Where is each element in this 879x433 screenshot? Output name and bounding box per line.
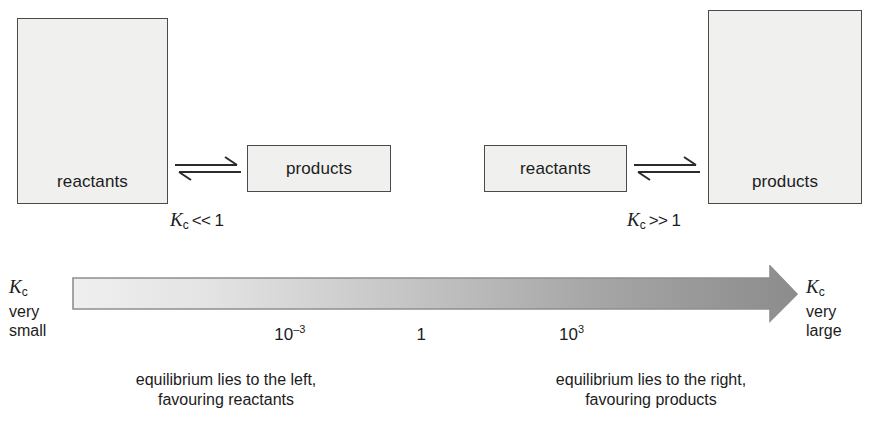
scale-tick-exponent: –3 bbox=[293, 323, 305, 335]
scale-left-line2: very bbox=[9, 302, 46, 321]
scale-tick: 10–3 bbox=[274, 325, 305, 345]
products-label: products bbox=[752, 173, 818, 203]
left-equilibrium-caption: equilibrium lies to the left, favouring … bbox=[136, 370, 317, 410]
reactants-label: reactants bbox=[520, 160, 591, 177]
scale-tick-mantissa: 10 bbox=[274, 325, 293, 344]
kc-condition-right: Kc>>1 bbox=[627, 209, 681, 232]
scale-tick: 103 bbox=[559, 325, 584, 345]
kc-subscript: c bbox=[183, 218, 189, 232]
right-equilibrium-caption: equilibrium lies to the right, favouring… bbox=[556, 370, 746, 410]
scale-left-line3: small bbox=[9, 321, 46, 340]
kc-symbol: K bbox=[9, 276, 22, 297]
kc-symbol-group: Kc bbox=[9, 277, 46, 302]
scale-left-endpoint-label: Kc very small bbox=[9, 277, 46, 340]
kc-subscript: c bbox=[640, 218, 646, 232]
caption-line-1: equilibrium lies to the right, bbox=[556, 370, 746, 390]
products-box-large: products bbox=[708, 10, 862, 204]
products-box-small: products bbox=[247, 145, 391, 192]
scale-tick-mantissa: 10 bbox=[559, 325, 578, 344]
scale-tick-exponent: 3 bbox=[578, 323, 584, 335]
kc-relation: << bbox=[192, 211, 211, 230]
kc-value: 1 bbox=[672, 211, 681, 230]
gradient-right-arrow-icon bbox=[72, 265, 798, 323]
kc-subscript: c bbox=[819, 285, 825, 299]
scale-right-line2: very bbox=[806, 302, 842, 321]
scale-tick: 1 bbox=[416, 325, 425, 345]
scale-right-endpoint-label: Kc very large bbox=[806, 277, 842, 340]
caption-line-2: favouring reactants bbox=[136, 390, 317, 410]
reactants-label: reactants bbox=[57, 173, 128, 203]
products-label: products bbox=[286, 160, 352, 177]
kc-symbol: K bbox=[806, 276, 819, 297]
reactants-box-small: reactants bbox=[484, 145, 627, 192]
caption-line-2: favouring products bbox=[556, 390, 746, 410]
equilibrium-double-arrow-icon bbox=[634, 155, 700, 181]
kc-symbol-group: Kc bbox=[806, 277, 842, 302]
scale-right-line3: large bbox=[806, 321, 842, 340]
reactants-box-large: reactants bbox=[17, 18, 168, 204]
kc-subscript: c bbox=[22, 285, 28, 299]
kc-value: 1 bbox=[215, 211, 224, 230]
equilibrium-constant-figure: reactants products Kc<<1 reactants produ… bbox=[0, 0, 879, 433]
equilibrium-double-arrow-icon bbox=[175, 155, 241, 181]
kc-condition-left: Kc<<1 bbox=[170, 209, 224, 232]
kc-symbol: K bbox=[170, 209, 183, 230]
kc-relation: >> bbox=[649, 211, 668, 230]
scale-tick-mantissa: 1 bbox=[416, 325, 425, 344]
kc-symbol: K bbox=[627, 209, 640, 230]
caption-line-1: equilibrium lies to the left, bbox=[136, 370, 317, 390]
